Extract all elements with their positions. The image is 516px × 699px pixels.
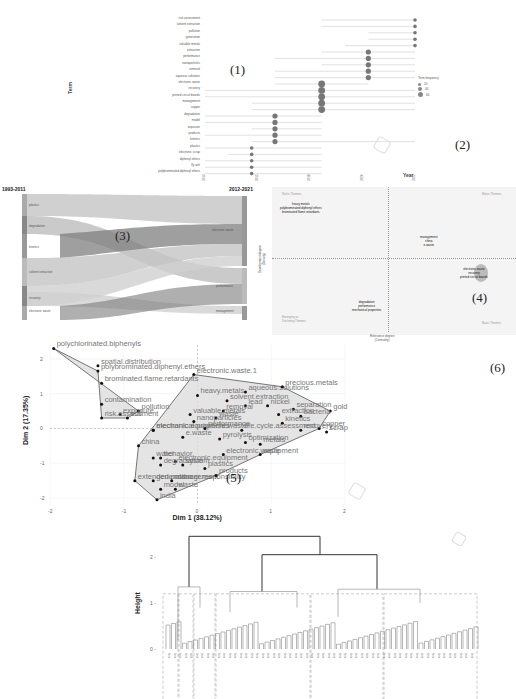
svg-text:1: 1 [40,391,43,397]
trend-plot-area: 20132015201820202022 [60,5,420,185]
sankey-left-node: solvent extraction [29,270,52,274]
svg-text:0: 0 [40,425,43,431]
thematic-y-axis-title: Development degree (Density) [258,245,266,273]
svg-text:term: term [206,653,210,658]
thematic-evolution-chart: 1993-2011 2012-2021 plastics degradation… [0,184,260,314]
svg-text:term: term [266,653,270,658]
svg-text:-2: -2 [40,495,45,501]
sankey-right-node: management [216,309,234,313]
svg-text:nickel: nickel [271,397,291,406]
svg-text:term: term [338,653,342,658]
legend-dot-icon [418,92,423,97]
theme-cluster-basic: electronic waste recovery printed circui… [460,267,488,279]
panel-label-2: (2) [455,137,470,153]
sankey-right-node: electronic waste [212,228,234,232]
svg-text:term: term [294,653,298,658]
legend-item: 20 [418,82,478,86]
svg-text:term: term [250,653,254,658]
svg-text:term: term [195,653,199,658]
svg-text:term: term [453,653,457,658]
svg-text:term: term [398,653,402,658]
svg-text:Dim 2 (17.35%): Dim 2 (17.35%) [22,396,30,445]
svg-text:term: term [464,653,468,658]
svg-text:term: term [272,653,276,658]
svg-text:china: china [142,437,161,446]
svg-text:-1: -1 [122,508,127,514]
svg-text:term: term [387,653,391,658]
trend-x-axis-title: Year [403,172,414,178]
theme-cluster-motor: management china e-waste [420,235,438,247]
svg-text:-2: -2 [48,508,53,514]
svg-text:term: term [233,653,237,658]
legend-title: Term frequency [418,76,478,80]
svg-text:waste: waste [177,480,198,489]
svg-text:term: term [415,653,419,658]
svg-text:term: term [288,653,292,658]
svg-text:term: term [393,653,397,658]
svg-text:term: term [360,653,364,658]
quadrant-motor: Motor Themes [482,192,501,196]
svg-text:term: term [222,653,226,658]
svg-text:term: term [442,653,446,658]
quadrant-basic: Basic Themes [482,321,501,325]
svg-text:term: term [420,653,424,658]
svg-text:term: term [321,653,325,658]
svg-text:term: term [470,653,474,658]
legend-dot-icon [418,83,421,86]
svg-text:term: term [228,653,232,658]
svg-text:brominated.flame.retardants: brominated.flame.retardants [105,374,199,383]
svg-text:2: 2 [343,508,346,514]
svg-text:term: term [349,653,353,658]
svg-text:term: term [409,653,413,658]
svg-text:1: 1 [269,508,272,514]
legend-item: 40 [418,87,478,91]
svg-text:term: term [376,653,380,658]
quadrant-emerging: Emerging or Declining Themes [282,315,306,323]
svg-text:term: term [184,653,188,658]
svg-text:term: term [283,653,287,658]
svg-text:term: term [178,653,182,658]
svg-text:gold: gold [333,402,347,411]
sankey-right-node: performance [216,284,233,288]
svg-text:term: term [310,653,314,658]
trend-legend: Term frequency 20 40 60 [418,76,478,97]
svg-text:term: term [437,653,441,658]
vertical-divider [388,187,389,332]
svg-text:term: term [354,653,358,658]
sankey-left-node: plastics [29,203,39,207]
svg-text:life.cycle.assessment: life.cycle.assessment [245,421,317,430]
svg-text:term: term [305,653,309,658]
horizontal-divider [272,258,516,259]
svg-text:polybrominated.diphenyl.ethers: polybrominated.diphenyl.ethers [101,362,205,371]
panel-label-1: (1) [230,62,245,78]
svg-text:Height: Height [134,592,142,614]
svg-text:term: term [200,653,204,658]
svg-text:term: term [332,653,336,658]
svg-text:term: term [299,653,303,658]
panel-label-4: (4) [472,290,487,306]
svg-text:performance: performance [208,419,250,428]
svg-text:term: term [244,653,248,658]
svg-text:term: term [255,653,259,658]
svg-text:system: system [186,456,210,465]
svg-text:india: india [160,491,177,500]
svg-text:term: term [189,653,193,658]
svg-text:scrap: scrap [330,423,348,432]
svg-text:2 -: 2 - [150,554,156,560]
panel-label-5: (5) [226,470,241,486]
svg-text:term: term [459,653,463,658]
svg-text:metals: metals [263,435,285,444]
dendrogram-chart: Height2 -1 -0 -termtermtermtermtermtermt… [0,519,516,699]
svg-text:term: term [371,653,375,658]
svg-text:2020: 2020 [360,174,364,181]
svg-text:electronic.waste.1: electronic.waste.1 [197,366,257,375]
svg-text:equipment: equipment [263,446,299,455]
sankey-left-node: kinetics [29,245,39,249]
svg-text:term: term [211,653,215,658]
svg-text:management: management [175,472,220,481]
svg-text:term: term [365,653,369,658]
svg-text:term: term [277,653,281,658]
sankey-left-node: degradation [29,224,45,228]
svg-text:term: term [327,653,331,658]
svg-text:-1: -1 [40,460,45,466]
